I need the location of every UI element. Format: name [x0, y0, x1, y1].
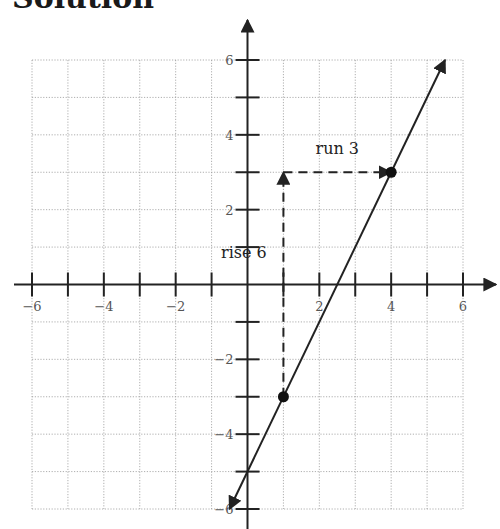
x-tick-label: 4: [387, 299, 395, 314]
axes: [14, 20, 496, 529]
x-tick-label: −2: [166, 299, 185, 314]
y-tick-label: −6: [214, 502, 233, 517]
data-point: [278, 391, 289, 402]
annotation-label: rise 6: [221, 243, 267, 262]
y-tick-label: −4: [214, 427, 233, 442]
annotation-label: run 3: [316, 139, 360, 158]
data-point: [386, 167, 397, 178]
coordinate-plane-chart: −6−4−2246642−2−4−6 rise 6run 3: [0, 0, 500, 529]
y-tick-label: −2: [214, 352, 233, 367]
x-tick-label: −6: [22, 299, 41, 314]
y-tick-label: 6: [225, 53, 233, 68]
x-tick-label: 6: [459, 299, 467, 314]
y-tick-label: 2: [225, 203, 233, 218]
y-tick-label: 4: [225, 128, 233, 143]
x-tick-label: −4: [94, 299, 113, 314]
x-tick-label: 2: [315, 299, 323, 314]
